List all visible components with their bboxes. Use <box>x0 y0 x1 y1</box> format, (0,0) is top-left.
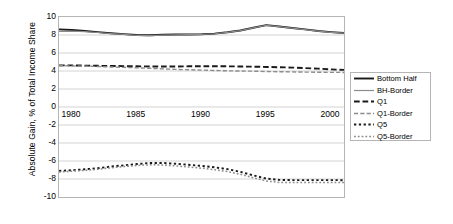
series-line-q5 <box>59 163 344 180</box>
x-axis-tick: 2000 <box>310 109 350 119</box>
y-axis-tick: -4 <box>30 138 56 146</box>
legend-item-q1[interactable]: Q1 <box>351 96 430 108</box>
chart-legend: Bottom HalfBH-BorderQ1Q1-BorderQ5Q5-Bord… <box>350 72 431 141</box>
y-axis-tick: -8 <box>30 174 56 182</box>
y-axis-tick: 8 <box>30 30 56 38</box>
legend-label: Q1 <box>377 97 387 106</box>
chart-container: Absolute Gain, % of Total Income Share 1… <box>0 0 453 224</box>
y-axis-tick: -2 <box>30 120 56 128</box>
legend-item-q5-border[interactable]: Q5-Border <box>351 131 430 143</box>
series-line-bottom-half <box>59 25 344 35</box>
legend-item-q1-border[interactable]: Q1-Border <box>351 108 430 120</box>
legend-item-q5[interactable]: Q5 <box>351 119 430 131</box>
y-axis-tick: -6 <box>30 156 56 164</box>
legend-swatch-icon <box>354 132 374 141</box>
x-axis-tick: 1990 <box>181 109 221 119</box>
legend-item-bh-border[interactable]: BH-Border <box>351 85 430 97</box>
x-axis-tick: 1995 <box>245 109 285 119</box>
legend-swatch-icon <box>354 109 374 118</box>
legend-label: Bottom Half <box>377 74 417 83</box>
series-line-bh-border <box>59 25 344 35</box>
legend-label: Q5-Border <box>377 132 412 141</box>
legend-item-bottom-half[interactable]: Bottom Half <box>351 73 430 85</box>
series-lines <box>59 25 344 183</box>
y-axis-tick: 10 <box>30 12 56 20</box>
legend-swatch-icon <box>354 86 374 95</box>
x-axis-tick: 1985 <box>116 109 156 119</box>
plot-svg <box>59 17 344 197</box>
y-axis-tick: 6 <box>30 48 56 56</box>
series-line-q5-border <box>59 165 344 183</box>
legend-swatch-icon <box>354 74 374 83</box>
legend-swatch-icon <box>354 120 374 129</box>
legend-label: Q5 <box>377 120 387 129</box>
legend-label: BH-Border <box>377 86 413 95</box>
legend-swatch-icon <box>354 97 374 106</box>
y-axis-tick: 4 <box>30 66 56 74</box>
legend-label: Q1-Border <box>377 109 412 118</box>
series-line-q1 <box>59 65 344 70</box>
y-axis-tick: -10 <box>30 192 56 200</box>
x-axis-tick: 1980 <box>51 109 91 119</box>
plot-area <box>58 16 345 198</box>
y-axis-tick: 2 <box>30 84 56 92</box>
gridlines <box>59 35 344 179</box>
